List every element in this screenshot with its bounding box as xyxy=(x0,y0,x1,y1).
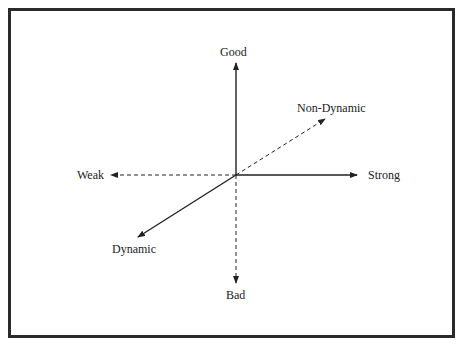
non-dynamic-axis-arrow xyxy=(236,119,325,175)
good-label: Good xyxy=(220,45,247,59)
dynamic-axis-arrow xyxy=(138,175,236,237)
non-dynamic-label: Non-Dynamic xyxy=(297,101,366,115)
dynamic-label: Dynamic xyxy=(112,242,156,256)
strong-label: Strong xyxy=(368,168,400,182)
bad-label: Bad xyxy=(226,288,245,302)
weak-label: Weak xyxy=(77,168,104,182)
